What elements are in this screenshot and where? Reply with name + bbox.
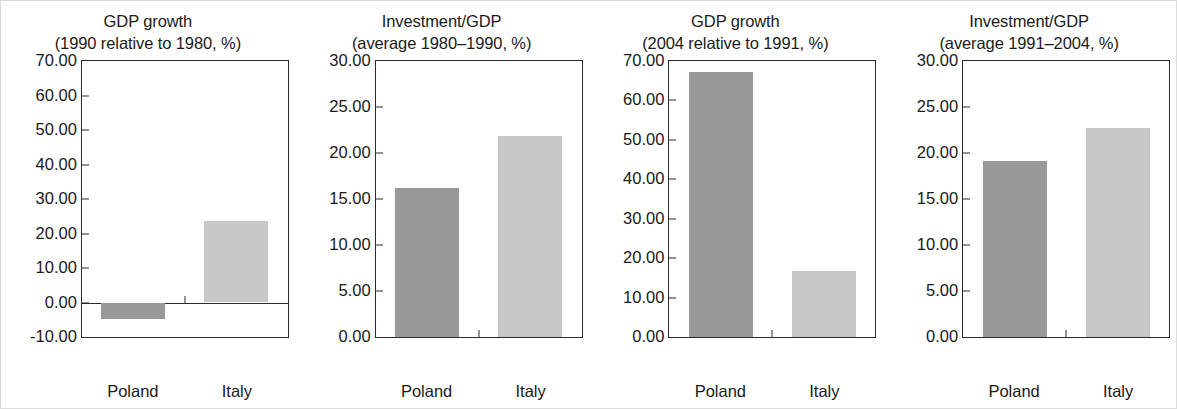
plot-area-3	[668, 60, 876, 338]
y-tick-mark	[82, 95, 89, 96]
y-tick-label: 50.00	[623, 131, 664, 148]
bar-italy	[204, 221, 268, 302]
y-tick-mark	[669, 297, 676, 298]
bar-poland	[983, 161, 1047, 337]
y-axis-2: 30.0025.0020.0015.0010.005.000.00	[301, 60, 375, 338]
plot-wrap-2: 30.0025.0020.0015.0010.005.000.00	[295, 60, 589, 360]
chart-panel-4: Investment/GDP (average 1991–2004, %) 30…	[882, 1, 1176, 408]
plot-area-4	[962, 60, 1170, 338]
chart-title-line1: GDP growth	[691, 12, 780, 30]
bar-italy	[1086, 128, 1150, 337]
y-tick-mark	[963, 245, 970, 246]
x-axis-inner-3: PolandItaly	[668, 382, 876, 408]
chart-panel-1: GDP growth (1990 relative to 1980, %) 70…	[1, 1, 295, 408]
y-tick-label: 40.00	[36, 155, 77, 172]
y-tick-label: 30.00	[329, 52, 370, 69]
y-tick-mark	[376, 245, 383, 246]
y-tick-label: 10.00	[329, 236, 370, 253]
y-tick-label: 30.00	[623, 209, 664, 226]
y-tick-mark	[669, 100, 676, 101]
y-axis-1: 70.0060.0050.0040.0030.0020.0010.000.00-…	[7, 60, 81, 338]
x-axis-inner-2: PolandItaly	[375, 382, 583, 408]
y-tick-label: 60.00	[36, 86, 77, 103]
x-category-label: Italy	[185, 382, 289, 408]
y-tick-mark	[669, 258, 676, 259]
chart-subtitle-line2: (1990 relative to 1980, %)	[55, 32, 241, 54]
y-tick-label: 60.00	[623, 91, 664, 108]
bar-poland	[689, 72, 753, 337]
chart-title-line1: Investment/GDP	[382, 12, 502, 30]
x-axis-3: PolandItaly	[589, 382, 883, 408]
chart-panel-2: Investment/GDP (average 1980–1990, %) 30…	[295, 1, 589, 408]
y-tick-mark	[669, 218, 676, 219]
y-tick-label: 20.00	[36, 224, 77, 241]
x-axis-4: PolandItaly	[882, 382, 1176, 408]
bar-poland	[395, 188, 459, 337]
x-axis-1: PolandItaly	[1, 382, 295, 408]
y-tick-label: -10.00	[30, 328, 77, 345]
y-tick-label: 30.00	[36, 190, 77, 207]
chart-title-line1: Investment/GDP	[969, 12, 1089, 30]
y-tick-mark	[82, 130, 89, 131]
y-tick-label: 40.00	[623, 170, 664, 187]
y-tick-mark	[669, 179, 676, 180]
y-tick-label: 20.00	[329, 144, 370, 161]
x-category-label: Italy	[772, 382, 876, 408]
x-category-label: Italy	[479, 382, 583, 408]
y-tick-mark	[963, 291, 970, 292]
y-tick-label: 25.00	[917, 98, 958, 115]
y-tick-label: 0.00	[632, 328, 664, 345]
chart-panel-3: GDP growth (2004 relative to 1991, %) 70…	[589, 1, 883, 408]
y-tick-mark	[963, 107, 970, 108]
y-tick-mark	[376, 199, 383, 200]
y-tick-mark	[963, 153, 970, 154]
chart-subtitle-line2: (2004 relative to 1991, %)	[642, 32, 828, 54]
category-separator-tick	[772, 330, 773, 337]
y-tick-mark	[82, 199, 89, 200]
y-tick-mark	[82, 268, 89, 269]
y-tick-mark	[376, 291, 383, 292]
x-axis-2: PolandItaly	[295, 382, 589, 408]
chart-title-4: Investment/GDP (average 1991–2004, %)	[939, 10, 1118, 54]
y-tick-label: 5.00	[339, 282, 371, 299]
x-axis-inner-4: PolandItaly	[962, 382, 1170, 408]
y-tick-mark	[82, 164, 89, 165]
y-tick-label: 10.00	[917, 236, 958, 253]
y-tick-label: 15.00	[917, 190, 958, 207]
y-tick-label: 0.00	[926, 328, 958, 345]
y-tick-label: 50.00	[36, 121, 77, 138]
plot-area-1	[81, 60, 289, 338]
y-tick-mark	[376, 153, 383, 154]
category-separator-tick	[478, 330, 479, 337]
plot-wrap-4: 30.0025.0020.0015.0010.005.000.00	[882, 60, 1176, 360]
chart-subtitle-line2: (average 1980–1990, %)	[352, 32, 531, 54]
chart-title-2: Investment/GDP (average 1980–1990, %)	[352, 10, 531, 54]
y-tick-label: 70.00	[36, 52, 77, 69]
y-axis-4: 30.0025.0020.0015.0010.005.000.00	[888, 60, 962, 338]
y-tick-label: 30.00	[917, 52, 958, 69]
y-tick-label: 25.00	[329, 98, 370, 115]
x-category-label: Poland	[962, 382, 1066, 408]
plot-wrap-3: 70.0060.0050.0040.0030.0020.0010.000.00	[589, 60, 883, 360]
y-tick-label: 20.00	[623, 249, 664, 266]
chart-title-1: GDP growth (1990 relative to 1980, %)	[55, 10, 241, 54]
x-axis-inner-1: PolandItaly	[81, 382, 289, 408]
category-separator-tick	[1066, 330, 1067, 337]
plot-area-2	[375, 60, 583, 338]
figure-panel-group: GDP growth (1990 relative to 1980, %) 70…	[0, 0, 1177, 409]
y-tick-mark	[963, 199, 970, 200]
y-tick-label: 10.00	[36, 259, 77, 276]
y-tick-label: 0.00	[339, 328, 371, 345]
category-separator-tick	[184, 296, 185, 303]
chart-title-3: GDP growth (2004 relative to 1991, %)	[642, 10, 828, 54]
y-tick-label: 70.00	[623, 52, 664, 69]
x-category-label: Poland	[668, 382, 772, 408]
chart-title-line1: GDP growth	[104, 12, 193, 30]
bar-italy	[498, 136, 562, 337]
x-category-label: Italy	[1066, 382, 1170, 408]
y-tick-mark	[376, 107, 383, 108]
x-category-label: Poland	[81, 382, 185, 408]
y-tick-mark	[82, 233, 89, 234]
bar-italy	[792, 271, 856, 337]
plot-wrap-1: 70.0060.0050.0040.0030.0020.0010.000.00-…	[1, 60, 295, 360]
